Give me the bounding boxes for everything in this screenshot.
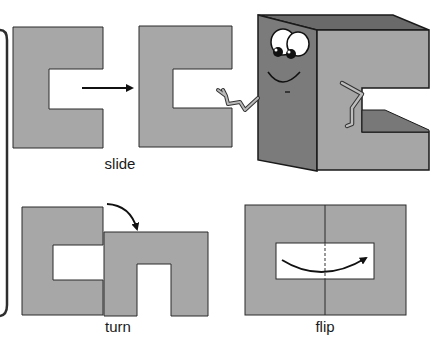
- slide-shape-moved: [139, 26, 232, 147]
- left-bracket: [0, 30, 7, 316]
- turn-shape-original: [22, 207, 103, 315]
- turn-shape-rotated: [104, 232, 208, 316]
- flip-label: flip: [285, 318, 365, 335]
- cartoon-letter-c: [218, 15, 429, 171]
- diagram-canvas: [0, 0, 441, 337]
- transformations-diagram: slide turn flip: [0, 0, 441, 337]
- turn-label: turn: [78, 318, 158, 335]
- curved-arrow-down-icon: [107, 204, 137, 229]
- slide-label: slide: [80, 155, 160, 172]
